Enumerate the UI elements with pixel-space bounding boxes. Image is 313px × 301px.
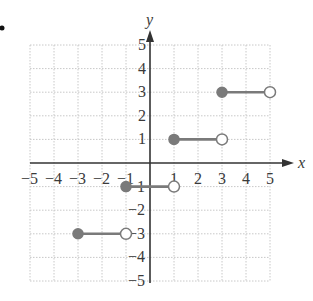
x-tick-label: −3: [69, 170, 86, 187]
open-endpoint: [217, 134, 228, 145]
closed-endpoint: [121, 182, 131, 192]
x-tick-label: 2: [194, 170, 202, 187]
y-tick-label: 3: [138, 83, 146, 100]
step-function-graph: x y −5−4−3−2−11234554321−1−2−3−4−5: [0, 0, 313, 301]
open-endpoint: [121, 228, 132, 239]
x-tick-label: 3: [218, 170, 226, 187]
y-tick-label: 5: [138, 36, 146, 53]
x-tick-label: −5: [21, 170, 38, 187]
x-axis-arrow-icon: [282, 159, 294, 167]
x-tick-label: −2: [93, 170, 110, 187]
y-tick-label: −2: [128, 201, 145, 218]
open-endpoint: [169, 181, 180, 192]
x-axis-label: x: [297, 154, 305, 171]
x-tick-label: 5: [266, 170, 274, 187]
y-tick-label: 2: [138, 107, 146, 124]
y-tick-label: −4: [128, 248, 145, 265]
y-tick-label: −5: [128, 272, 145, 289]
axes: x y: [30, 11, 305, 283]
y-tick-label: 4: [138, 60, 146, 77]
x-tick-label: 4: [242, 170, 250, 187]
closed-endpoint: [169, 134, 179, 144]
y-axis-label: y: [144, 11, 154, 29]
x-tick-label: −4: [45, 170, 62, 187]
y-axis-arrow-icon: [146, 30, 154, 42]
y-tick-label: 1: [138, 130, 146, 147]
closed-endpoint: [217, 87, 227, 97]
list-bullet: [0, 26, 5, 31]
open-endpoint: [265, 87, 276, 98]
closed-endpoint: [73, 229, 83, 239]
